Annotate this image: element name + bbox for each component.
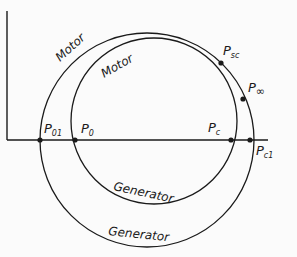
label-p0: P0 [81,121,94,138]
label-pc1: Pc1 [256,143,273,160]
circle-diagram: P01 P0 Pc Pc1 Psc P∞ Motor Motor Generat… [0,0,297,257]
label-p01: P01 [44,121,62,138]
label-pc: Pc [208,120,221,137]
point-pc-dot [228,137,233,142]
label-pinf: P∞ [248,80,265,98]
point-pc1-dot [247,137,252,142]
point-pinf-dot [240,96,245,101]
diagram-svg: P01 P0 Pc Pc1 Psc P∞ Motor Motor Generat… [0,0,297,257]
point-p01-dot [37,137,42,142]
label-outer-generator: Generator [108,224,171,244]
point-p0-dot [72,137,77,142]
label-outer-motor: Motor [53,30,89,64]
point-psc-dot [218,60,223,65]
label-psc: Psc [223,43,240,60]
label-inner-generator: Generator [112,179,176,206]
